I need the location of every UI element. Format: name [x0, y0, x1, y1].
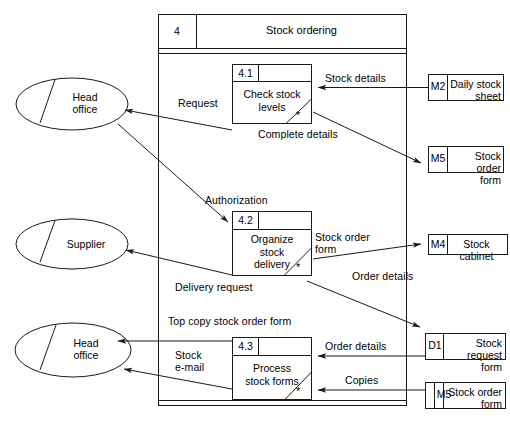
entity-supplier-line1: Supplier	[55, 238, 117, 250]
store-M4-name-line1: Stock cabinet	[449, 238, 504, 262]
entity-head-office-bottom-line1: Head	[56, 337, 116, 349]
process-4-1-name-line1: Check stock	[233, 88, 311, 101]
entity-label-head-office-top: Head office	[55, 91, 115, 115]
store-M2-code: M2	[429, 80, 447, 92]
flow-label-stock-order-form-line1: Stock order	[315, 231, 370, 243]
process-4-3-number: 4.3	[233, 340, 258, 352]
process-4-1-number: 4.1	[233, 67, 258, 79]
flow-label-order-details-bottom: Order details	[325, 340, 386, 352]
flow-label-complete-details: Complete details	[258, 128, 338, 140]
entity-head-office-top-line2: office	[55, 103, 115, 115]
process-4-2-number: 4.2	[233, 214, 258, 226]
entity-head-office-top-line1: Head	[55, 91, 115, 103]
store-D1-name-line2: form	[446, 361, 502, 373]
store-M5-bottom-name-line1: Stock order	[446, 386, 502, 398]
store-M5-top-code: M5	[429, 152, 447, 164]
flow-label-request: Request	[178, 97, 218, 109]
store-M5-top-name: Stock order form	[449, 150, 501, 186]
flow-label-stock-email: Stock e-mail	[175, 349, 204, 373]
store-D1-code: D1	[426, 339, 444, 351]
flow-order-details-mid	[307, 281, 420, 327]
flow-label-top-copy-stock-order-form: Top copy stock order form	[168, 315, 291, 327]
entity-label-supplier: Supplier	[55, 238, 117, 250]
flow-label-stock-email-line1: Stock	[175, 349, 204, 361]
process-4-2-name-line1: Organize	[233, 233, 311, 246]
flow-label-order-details-mid: Order details	[352, 270, 413, 282]
store-D1-name: Stock request form	[446, 337, 502, 373]
process-4-3-marker: *	[296, 386, 300, 397]
flow-request	[125, 110, 232, 130]
process-4-2-marker: *	[296, 262, 300, 273]
process-4-2-name-line2: stock	[233, 246, 311, 259]
process-4-3-name-line1: Process	[233, 362, 311, 375]
store-M2-name-line2: sheet	[449, 90, 501, 102]
flow-label-authorization: Authorization	[205, 194, 268, 206]
store-M4-name: Stock cabinet	[449, 238, 504, 262]
store-M5-top-name-line1: Stock order	[449, 150, 501, 174]
flow-label-delivery-request: Delivery request	[175, 281, 252, 293]
store-M2-name: Daily stock sheet	[449, 78, 501, 102]
store-M5-bottom-name-line2: form	[446, 398, 502, 410]
flow-label-stock-order-form-line2: form	[315, 243, 370, 255]
store-M4-code: M4	[429, 238, 447, 250]
entity-head-office-bottom-line2: office	[56, 349, 116, 361]
process-4-1-marker: *	[296, 110, 300, 121]
flow-label-copies: Copies	[345, 374, 378, 386]
diagram-number: 4	[158, 25, 196, 37]
diagram-title: Stock ordering	[197, 24, 406, 36]
flow-authorization	[118, 124, 228, 222]
store-M2-name-line1: Daily stock	[449, 78, 501, 90]
dfd-canvas: 4 Stock ordering Head office Supplier He…	[0, 0, 510, 422]
store-D1-name-line1: Stock request	[446, 337, 502, 361]
store-M5-top-name-line2: form	[449, 174, 501, 186]
process-4-3-name: Process stock forms	[233, 362, 311, 387]
entity-label-head-office-bottom: Head office	[56, 337, 116, 361]
flow-label-stock-order-form: Stock order form	[315, 231, 370, 255]
flow-delivery-request	[126, 250, 232, 275]
store-M5-bottom-name: Stock order form	[446, 386, 502, 410]
flow-label-stock-details: Stock details	[325, 72, 386, 84]
flow-label-stock-email-line2: e-mail	[175, 361, 204, 373]
